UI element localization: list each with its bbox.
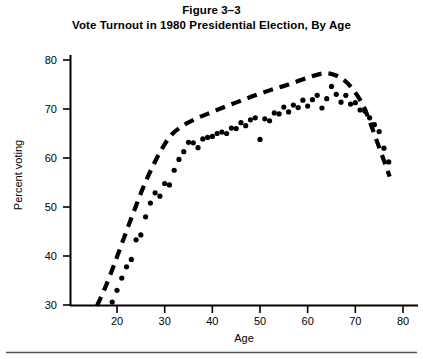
scatter-point	[176, 157, 181, 162]
y-tick-label: 70	[45, 103, 57, 115]
y-tick-label: 50	[45, 201, 57, 213]
scatter-point	[358, 107, 363, 112]
scatter-point	[291, 102, 296, 107]
scatter-point	[119, 275, 124, 280]
scatter-point	[386, 159, 391, 164]
y-tick-label: 30	[45, 299, 57, 311]
y-tick-label: 40	[45, 250, 57, 262]
scatter-point	[367, 115, 372, 120]
scatter-point	[224, 131, 229, 136]
scatter-point	[248, 117, 253, 122]
scatter-point	[181, 149, 186, 154]
scatter-point	[167, 182, 172, 187]
scatter-point	[272, 110, 277, 115]
x-tick-label: 50	[254, 315, 266, 327]
scatter-point	[229, 126, 234, 131]
scatter-point	[267, 118, 272, 123]
scatter-point	[348, 102, 353, 107]
x-tick-label: 30	[159, 315, 171, 327]
scatter-point	[343, 93, 348, 98]
scatter-point	[110, 299, 115, 304]
scatter-point	[372, 122, 377, 127]
scatter-point	[138, 232, 143, 237]
scatter-point	[296, 105, 301, 110]
x-axis-tick-labels: 20304050607080	[111, 315, 409, 327]
scatter-point	[262, 116, 267, 121]
scatter-point	[205, 135, 210, 140]
scatter-point	[377, 129, 382, 134]
y-axis-ticks	[63, 60, 70, 305]
scatter-point	[157, 194, 162, 199]
scatter-point	[334, 92, 339, 97]
scatter-point	[153, 190, 158, 195]
scatter-point	[215, 131, 220, 136]
scatter-point	[281, 104, 286, 109]
figure-container: Figure 3–3 Vote Turnout in 1980 Presiden…	[0, 0, 423, 359]
trend-dashed-line	[97, 73, 390, 306]
scatter-point	[200, 136, 205, 141]
scatter-point	[305, 103, 310, 108]
scatter-point	[191, 140, 196, 145]
x-tick-label: 20	[111, 315, 123, 327]
scatter-point	[338, 100, 343, 105]
scatter-point	[238, 120, 243, 125]
scatter-point	[315, 93, 320, 98]
scatter-point	[143, 214, 148, 219]
scatter-point	[257, 137, 262, 142]
scatter-point	[114, 288, 119, 293]
scatter-point	[219, 129, 224, 134]
scatter-point	[324, 96, 329, 101]
x-axis-ticks	[117, 306, 403, 313]
scatter-point	[319, 105, 324, 110]
y-tick-label: 60	[45, 152, 57, 164]
y-axis-title: Percent voting	[12, 140, 24, 210]
scatter-point	[381, 146, 386, 151]
scatter-point-group	[110, 84, 392, 305]
x-tick-label: 80	[397, 315, 409, 327]
scatter-point	[210, 134, 215, 139]
scatter-point	[310, 97, 315, 102]
x-tick-label: 70	[349, 315, 361, 327]
scatter-point	[286, 109, 291, 114]
x-tick-label: 40	[206, 315, 218, 327]
x-axis-title: Age	[234, 332, 254, 344]
scatter-point	[129, 257, 134, 262]
scatter-point	[172, 168, 177, 173]
scatter-point	[362, 108, 367, 113]
scatter-point	[243, 123, 248, 128]
scatter-point	[253, 115, 258, 120]
scatter-point	[124, 264, 129, 269]
scatter-point	[300, 98, 305, 103]
scatter-point	[234, 126, 239, 131]
scatter-point	[276, 111, 281, 116]
scatter-point	[162, 181, 167, 186]
y-tick-label: 80	[45, 54, 57, 66]
scatter-point	[195, 145, 200, 150]
scatter-point	[148, 200, 153, 205]
scatter-point	[353, 100, 358, 105]
scatter-point	[186, 140, 191, 145]
scatter-point	[329, 84, 334, 89]
scatter-point	[133, 237, 138, 242]
x-tick-label: 60	[302, 315, 314, 327]
chart-plot-area: 807060504030 20304050607080 Age Percent …	[0, 0, 423, 359]
y-axis-tick-labels: 807060504030	[45, 54, 57, 311]
